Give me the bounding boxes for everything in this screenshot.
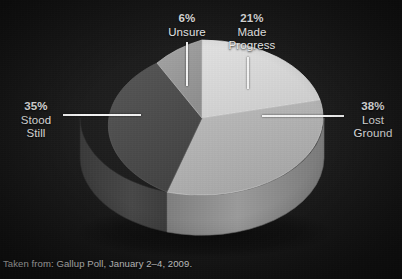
slice-percent-stood-still: 35%: [8, 100, 64, 114]
slice-name-made-progress-line1: Made: [212, 26, 292, 40]
source-caption: Taken from: Gallup Poll, January 2–4, 20…: [3, 258, 192, 269]
slice-label-lost-ground: 38% Lost Ground: [347, 100, 399, 141]
slice-label-stood-still: 35% Stood Still: [8, 100, 64, 141]
leader-line-unsure: [186, 42, 188, 86]
leader-line-made-progress: [247, 57, 249, 89]
leader-line-lost-ground: [262, 115, 344, 117]
slice-name-lost-ground-line1: Lost: [347, 114, 399, 128]
pie-chart-slide: 6% Unsure 21% Made Progress 35% Stood St…: [0, 0, 402, 279]
slice-name-stood-still-line1: Stood: [8, 114, 64, 128]
slice-label-made-progress: 21% Made Progress: [212, 12, 292, 53]
slice-name-stood-still-line2: Still: [8, 127, 64, 141]
slice-name-lost-ground-line2: Ground: [347, 127, 399, 141]
slice-name-made-progress-line2: Progress: [212, 39, 292, 53]
slice-percent-lost-ground: 38%: [347, 100, 399, 114]
slice-percent-made-progress: 21%: [212, 12, 292, 26]
leader-line-stood-still: [63, 114, 141, 116]
